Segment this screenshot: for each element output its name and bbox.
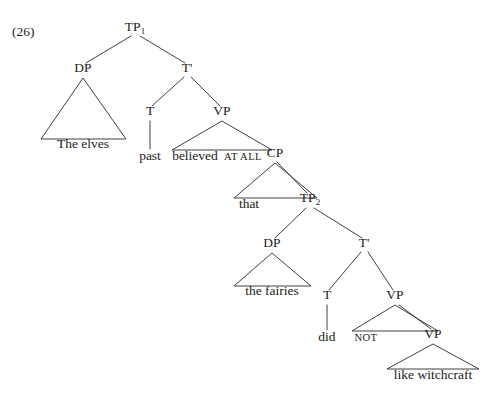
tree-node-vp1: VP [213,103,230,118]
tree-node-dp1: DP [74,60,91,75]
tree-node-tbar1: T' [182,60,193,75]
tree-triangles [41,78,479,369]
tree-node-cp: CP [267,145,284,160]
constituent-triangle-tri-dp2 [234,253,311,286]
syntax-tree-canvas: (26) TP1DPT'TVPCPTP2DPT'TVPVP The elvesp… [0,0,494,400]
tree-branch-tbar2-vp2 [368,252,393,290]
tree-leaf-like-witchcraft: like witchcraft [394,367,473,382]
tree-branch-tp1-dp1 [86,36,131,63]
tree-leaf-at-all: AT ALL [224,151,262,162]
tree-node-vp2: VP [386,287,403,302]
tree-node-t1: T [146,103,155,118]
tree-node-tp2: TP2 [300,190,320,207]
tree-branch-tp2-tbar2 [314,208,362,238]
constituent-triangle-tri-vp3 [387,344,479,369]
tree-leaf-did: did [318,329,336,344]
constituent-triangle-tri-vp1 [172,121,272,150]
tree-leaf-not: NOT [355,332,378,343]
tree-node-t2: T [323,287,332,302]
tree-branch-tbar1-vp1 [191,77,220,106]
tree-leaf-the-elves: The elves [57,136,109,151]
tree-leaf-the-fairies: the fairies [245,283,299,298]
tree-node-tp1: TP1 [125,19,145,36]
example-number: (26) [12,24,35,39]
tree-node-tbar2: T' [359,235,370,250]
tree-branch-tp1-tbar1 [140,36,185,63]
constituent-triangle-tri-dp1 [41,78,126,139]
tree-branch-tbar2-t2 [329,252,361,290]
tree-branch-tbar1-t1 [152,77,184,106]
tree-node-dp2: DP [263,235,280,250]
tree-node-vp3: VP [424,326,441,341]
tree-branch-tp2-dp2 [275,208,306,238]
tree-leaf-that: that [239,196,259,211]
syntax-tree-figure: (26) TP1DPT'TVPCPTP2DPT'TVPVP The elvesp… [0,0,494,400]
tree-leaf-believed: believed [172,148,218,163]
tree-leaf-past: past [139,148,161,163]
